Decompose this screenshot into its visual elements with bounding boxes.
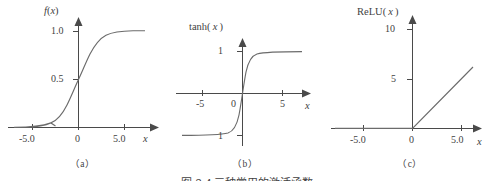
tanh-x-axis-label: x <box>305 101 310 112</box>
sigmoid-function-label: f(x) <box>44 6 59 17</box>
sigmoid-xtick-label-0: 0 <box>75 134 80 144</box>
relu-ytick-label-5: 5 <box>391 74 396 84</box>
tanh-y-axis-arrow <box>239 38 247 47</box>
relu-ytick-label-10: 10 <box>385 24 395 34</box>
tanh-ytick-label-neg1: 1 <box>218 131 223 141</box>
subcaption-a: （a） <box>0 156 165 170</box>
relu-xtick-label-0: 0 <box>409 135 414 145</box>
chart-sigmoid: f(x) 1.0 0.5 -5.0 0 5.0 x （a） <box>0 0 165 181</box>
sigmoid-x-axis-label: x <box>143 134 148 145</box>
sigmoid-x-axis-arrow <box>150 124 159 132</box>
tanh-xtick-label-neg5: -5 <box>196 99 204 109</box>
relu-xtick-label-5: 5.0 <box>451 135 464 145</box>
sigmoid-ytick-label-1: 1.0 <box>51 26 64 36</box>
sigmoid-ytick-label-05: 0.5 <box>51 74 64 84</box>
sigmoid-curve <box>14 31 145 128</box>
figure-main-caption: 图 3-4 三种常用的激活函数 <box>0 174 495 181</box>
relu-x-axis-label: x <box>477 137 482 148</box>
sigmoid-xtick-label-5: 5.0 <box>113 134 126 144</box>
chart-relu: ReLU( x ) 10 5 -5.0 0 5.0 x （c） <box>325 0 495 181</box>
tanh-xtick-label-5: 5 <box>280 99 285 109</box>
tanh-xtick-label-0: 0 <box>231 99 236 109</box>
chart-tanh: tanh( x ) 1 1 -5 0 5 x （b） <box>160 0 330 181</box>
tanh-ytick-label-pos1: 1 <box>218 46 223 56</box>
tanh-x-axis-arrow <box>302 90 311 98</box>
subcaption-c: （c） <box>325 156 495 170</box>
relu-x-axis-arrow <box>473 125 482 133</box>
tanh-function-label: tanh( x ) <box>189 22 223 33</box>
sigmoid-xtick-label-neg5: -5.0 <box>19 134 35 144</box>
activation-functions-figure: f(x) 1.0 0.5 -5.0 0 5.0 x （a） tanh( x <box>0 0 495 181</box>
relu-curve <box>335 67 473 128</box>
tanh-plot-svg <box>160 0 330 160</box>
relu-xtick-label-neg5: -5.0 <box>350 135 366 145</box>
relu-y-axis-arrow <box>409 15 417 24</box>
relu-function-label: ReLU( x ) <box>357 7 399 18</box>
sigmoid-y-axis-arrow <box>75 17 83 26</box>
subcaption-b: （b） <box>160 156 330 170</box>
